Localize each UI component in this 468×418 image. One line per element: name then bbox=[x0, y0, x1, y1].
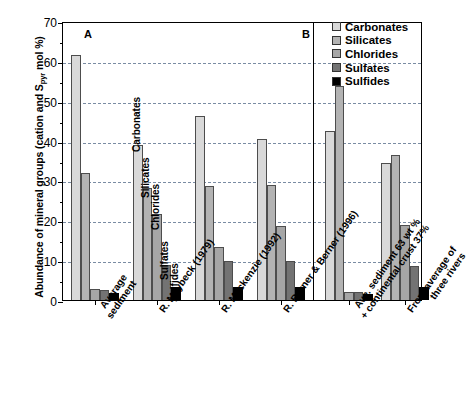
y-tick-minor-35 bbox=[60, 163, 63, 164]
y-tick-label-10: 10 bbox=[17, 255, 57, 269]
bar-chlorides-0[interactable] bbox=[90, 289, 100, 300]
y-tick-minor-5 bbox=[60, 282, 63, 283]
bar-carbonates-2[interactable] bbox=[195, 116, 205, 300]
legend-swatch-carbonates bbox=[332, 22, 341, 31]
bar-chlorides-2[interactable] bbox=[214, 247, 224, 300]
legend-item-sulfides[interactable]: Sulfides bbox=[332, 74, 408, 88]
legend-swatch-sulfates bbox=[332, 63, 341, 72]
bar-group-3 bbox=[257, 139, 305, 300]
panel-label-b: B bbox=[302, 28, 310, 40]
legend-swatch-sulfides bbox=[332, 77, 341, 86]
legend-swatch-chlorides bbox=[332, 49, 341, 58]
legend-label-sulfides: Sulfides bbox=[345, 75, 390, 87]
bar-group-4 bbox=[325, 86, 373, 300]
bar-silicates-0[interactable] bbox=[81, 173, 91, 300]
bar-group-0 bbox=[71, 55, 119, 300]
y-tick-label-0: 0 bbox=[17, 295, 57, 309]
y-axis-title-subscript: pyr bbox=[38, 73, 47, 84]
y-tick-minor-65 bbox=[60, 43, 63, 44]
y-tick-0 bbox=[58, 302, 63, 303]
series-annotation-chlorides: Chlorides bbox=[150, 184, 161, 230]
panel-divider bbox=[313, 23, 314, 300]
legend-label-chlorides: Chlorides bbox=[345, 48, 398, 60]
y-tick-minor-55 bbox=[60, 83, 63, 84]
y-tick-70 bbox=[58, 23, 63, 24]
legend-swatch-silicates bbox=[332, 36, 341, 45]
x-tick-3 bbox=[281, 300, 282, 305]
legend-item-silicates[interactable]: Silicates bbox=[332, 34, 408, 48]
bar-chlorides-4[interactable] bbox=[344, 292, 354, 300]
bar-carbonates-4[interactable] bbox=[325, 131, 335, 300]
y-tick-minor-25 bbox=[60, 202, 63, 203]
y-tick-label-70: 70 bbox=[17, 16, 57, 30]
y-tick-60 bbox=[58, 63, 63, 64]
y-tick-label-20: 20 bbox=[17, 215, 57, 229]
bar-silicates-4[interactable] bbox=[335, 86, 345, 300]
y-tick-label-30: 30 bbox=[17, 175, 57, 189]
y-tick-30 bbox=[58, 182, 63, 183]
x-tick-2 bbox=[219, 300, 220, 305]
x-tick-4 bbox=[349, 300, 350, 305]
legend-label-carbonates: Carbonates bbox=[345, 21, 408, 33]
bar-carbonates-0[interactable] bbox=[71, 55, 81, 300]
y-tick-label-40: 40 bbox=[17, 136, 57, 150]
x-tick-5 bbox=[405, 300, 406, 305]
y-tick-minor-15 bbox=[60, 242, 63, 243]
x-tick-0 bbox=[95, 300, 96, 305]
y-tick-label-60: 60 bbox=[17, 56, 57, 70]
y-tick-label-50: 50 bbox=[17, 96, 57, 110]
y-tick-10 bbox=[58, 262, 63, 263]
y-tick-40 bbox=[58, 143, 63, 144]
chart-legend: CarbonatesSilicatesChloridesSulfatesSulf… bbox=[332, 20, 408, 88]
panel-label-a: A bbox=[84, 28, 92, 40]
y-tick-minor-45 bbox=[60, 123, 63, 124]
y-tick-20 bbox=[58, 222, 63, 223]
bar-carbonates-3[interactable] bbox=[257, 139, 267, 300]
legend-item-carbonates[interactable]: Carbonates bbox=[332, 20, 408, 34]
legend-label-silicates: Silicates bbox=[345, 34, 392, 46]
legend-label-sulfates: Sulfates bbox=[345, 62, 390, 74]
x-tick-1 bbox=[157, 300, 158, 305]
y-tick-50 bbox=[58, 103, 63, 104]
legend-item-chlorides[interactable]: Chlorides bbox=[332, 47, 408, 61]
series-annotation-carbonates: Carbonates bbox=[131, 97, 142, 152]
legend-item-sulfates[interactable]: Sulfates bbox=[332, 61, 408, 75]
bar-group-2 bbox=[195, 116, 243, 300]
